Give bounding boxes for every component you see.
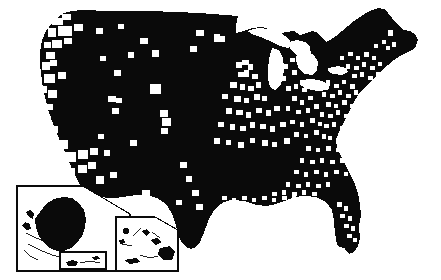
map-canvas — [0, 0, 441, 280]
hawaii-inset — [116, 217, 178, 271]
hawaii-inset-frame — [116, 217, 178, 271]
aleutian-inset-frame — [60, 252, 106, 269]
us-county-map-figure — [0, 0, 441, 280]
hawaii-island-kauai — [123, 228, 129, 234]
